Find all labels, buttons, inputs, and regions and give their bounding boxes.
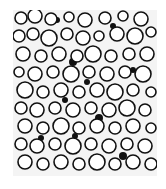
bubble [37,158,49,170]
bubble [28,67,42,81]
bubble [49,102,61,114]
bubble [118,11,128,21]
bubble [105,50,117,62]
micrograph-image [13,10,157,176]
bubble [119,100,135,116]
bubble [52,47,66,61]
bubble [109,122,121,134]
bubble [146,27,156,37]
bubble [73,86,85,98]
dark-spot [84,79,90,85]
bubble [18,155,32,169]
bubble [17,82,33,98]
bubble [63,66,79,82]
bubble [145,158,157,170]
bubble [127,28,143,44]
bubble [99,12,111,24]
bubble [127,84,139,96]
bubble [28,10,42,23]
bubble [90,83,104,97]
bubble [37,122,49,134]
dark-spot [119,152,127,160]
bubble [41,30,57,46]
bubble [102,103,116,117]
bubble [49,138,61,150]
bubble [27,28,39,40]
bubble [85,138,97,150]
bubble [78,13,92,27]
bubble [110,27,124,41]
bubble [126,119,140,133]
bubble [15,12,27,24]
bubble [135,66,151,82]
bubble [134,12,148,26]
bubble [109,158,121,170]
bubble [100,67,114,81]
bubble [140,47,154,61]
bubble [61,28,73,40]
bubble [15,138,27,150]
bubble [94,31,104,41]
bubble [18,119,32,133]
bubble [89,154,105,170]
bubble [123,48,135,60]
bubble [13,30,25,42]
bubble [121,138,133,150]
bubble [47,66,59,78]
bubble [76,31,90,45]
bubble [90,119,104,133]
bubble [85,46,101,62]
bubble [30,139,44,153]
bubble [119,66,131,78]
bubble [85,102,97,114]
bubble [14,67,24,77]
bubble-field [13,10,157,176]
bubble [71,50,83,62]
bubble [15,102,27,114]
bubble [102,139,116,153]
bubble [139,104,151,116]
bubble [16,47,30,61]
bubble [35,50,47,62]
bubble [53,118,69,134]
dark-spot [62,97,68,103]
bubble [37,86,49,98]
bubble [146,87,156,97]
bubble [146,123,156,133]
bubble [45,13,57,25]
bubble [30,103,44,117]
bubble [83,66,95,78]
bubble [65,138,81,154]
bubble [54,83,68,97]
bubble [126,155,140,169]
bubble [64,12,74,22]
bubble [73,158,85,170]
bubble [73,122,85,134]
bubble [66,103,80,117]
bubble [107,84,123,100]
bubble [138,139,152,153]
bubble [54,155,68,169]
